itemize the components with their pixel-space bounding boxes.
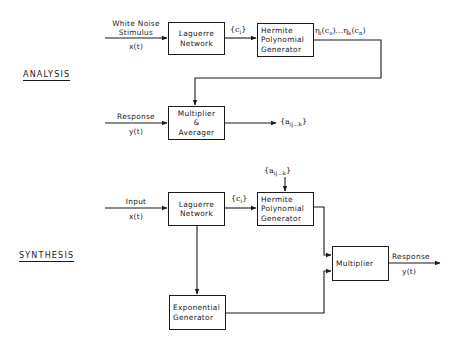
math-text: {c <box>230 25 240 34</box>
math-text: } <box>302 117 307 126</box>
box-label: Averager <box>179 128 215 138</box>
synthesis-response-label: Response <box>392 252 430 261</box>
white-noise-line1: White Noise <box>105 19 167 28</box>
synthesis-kernel-input: {aij...k} <box>264 166 291 176</box>
analysis-kernel-output: {aij...k} <box>280 117 307 127</box>
analysis-hermite-generator: Hermite Polynomial Generator <box>257 23 314 57</box>
math-text: {a <box>280 117 290 126</box>
math-text: } <box>241 25 246 34</box>
exponential-generator: Exponential Generator <box>169 295 226 330</box>
multiplier-averager: Multiplier & Averager <box>168 106 225 140</box>
math-text: ) <box>363 26 366 35</box>
math-sub: ij...k <box>290 121 302 127</box>
box-label: Multiplier <box>336 259 373 269</box>
box-label: Laguerre <box>179 200 214 210</box>
synthesis-input-label: Input <box>105 197 167 206</box>
synthesis-input-signal: x(t) <box>105 212 167 221</box>
box-label: Hermite <box>261 26 293 36</box>
box-label: Hermite <box>261 195 293 205</box>
box-label: Network <box>180 209 213 219</box>
analysis-response-label: Response <box>105 112 167 121</box>
analysis-response-signal: y(t) <box>105 127 167 136</box>
math-text: {c <box>231 194 241 203</box>
analysis-laguerre-network: Laguerre Network <box>168 22 225 55</box>
white-noise-line2: Stimulus <box>105 28 167 37</box>
box-label: Generator <box>261 45 301 55</box>
synthesis-coeff-label: {ci} <box>231 194 247 204</box>
box-label: Exponential <box>173 303 220 313</box>
box-label: Polynomial <box>261 204 304 214</box>
white-noise-label: White Noise Stimulus <box>105 19 167 37</box>
box-label: Network <box>180 39 213 49</box>
analysis-section-label: ANALYSIS <box>23 70 70 81</box>
synthesis-hermite-generator: Hermite Polynomial Generator <box>257 192 314 226</box>
synthesis-response-signal: y(t) <box>402 267 416 276</box>
analysis-input-signal: x(t) <box>105 42 167 51</box>
synthesis-section-label: SYNTHESIS <box>19 251 74 262</box>
box-label: Polynomial <box>261 35 304 45</box>
synthesis-multiplier: Multiplier <box>332 246 389 281</box>
box-label: Generator <box>261 214 301 224</box>
synthesis-laguerre-network: Laguerre Network <box>168 192 225 226</box>
math-text: )...η <box>332 26 348 35</box>
math-sub: ij...k <box>274 170 286 176</box>
box-label: Laguerre <box>179 29 214 39</box>
box-label: Generator <box>173 313 213 323</box>
math-text: {a <box>264 166 274 175</box>
box-label: Multiplier <box>178 109 215 119</box>
math-text: (c <box>351 26 359 35</box>
hermite-output-label: ηi(co)...ηk(cn) <box>315 26 366 36</box>
connector-lines <box>0 0 457 346</box>
analysis-coeff-label: {ci} <box>230 25 246 35</box>
math-text: } <box>242 194 247 203</box>
math-text: } <box>286 166 291 175</box>
box-label: & <box>193 118 199 128</box>
